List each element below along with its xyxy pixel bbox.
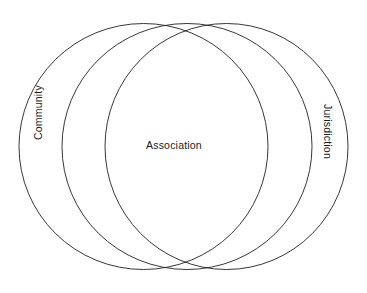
venn-diagram: Community Association Jurisdiction bbox=[0, 0, 367, 293]
venn-label-community: Community bbox=[33, 85, 44, 140]
venn-label-association: Association bbox=[146, 140, 202, 151]
ellipse-community bbox=[19, 24, 268, 270]
venn-label-jurisdiction: Jurisdiction bbox=[323, 104, 334, 159]
